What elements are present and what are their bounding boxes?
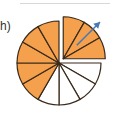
- fraction-pie-diagram: [0, 0, 116, 113]
